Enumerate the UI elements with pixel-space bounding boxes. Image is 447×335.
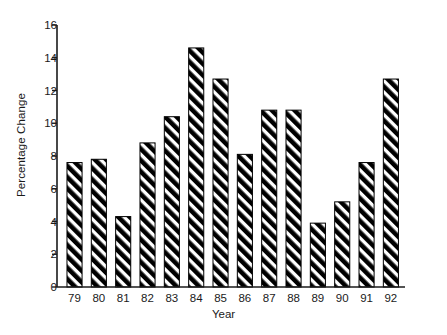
- bar: [164, 117, 179, 287]
- plot-area: [0, 0, 447, 335]
- bar-chart: Percentage Change 0246810121416 79808182…: [0, 0, 447, 335]
- bar: [91, 159, 106, 287]
- bar: [359, 163, 374, 287]
- bar: [67, 163, 82, 287]
- bar: [383, 79, 398, 287]
- bar: [335, 202, 350, 287]
- bar: [116, 217, 131, 287]
- bar: [237, 154, 252, 287]
- bar: [310, 223, 325, 287]
- bar: [213, 79, 228, 287]
- bars-group: [67, 48, 398, 287]
- bar: [140, 143, 155, 287]
- bar: [189, 48, 204, 287]
- bar: [262, 110, 277, 287]
- bar: [286, 110, 301, 287]
